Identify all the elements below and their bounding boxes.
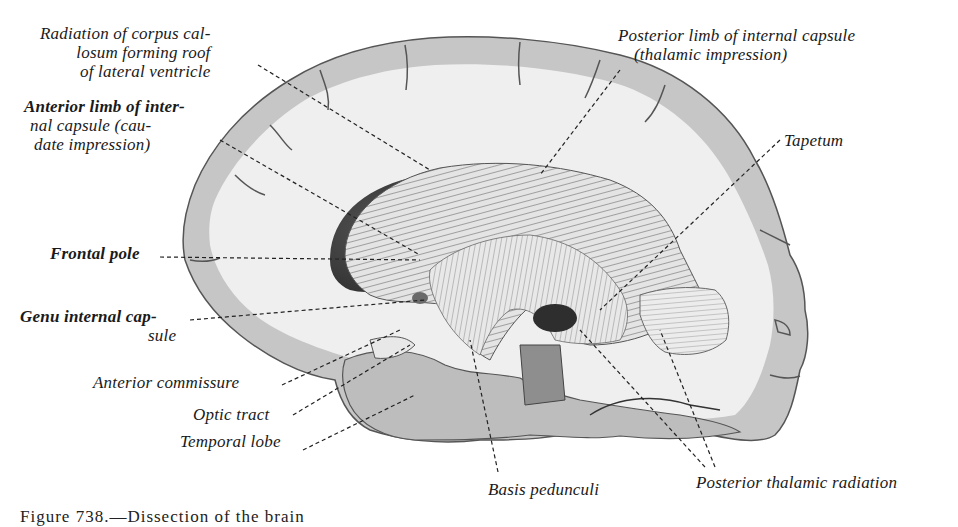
label-tapetum: Tapetum [784,131,843,150]
label-optic-tract: Optic tract [193,405,269,424]
label-posterior-thalamic-radiation: Posterior thalamic radiation [696,473,897,492]
label-basis-pedunculi: Basis pedunculi [488,480,599,499]
anterior-commissure-structure [412,292,428,304]
label-line: date impression) [24,135,185,154]
label-line: sule [20,326,176,345]
label-anterior-commissure: Anterior commissure [93,373,239,392]
peduncle-hole [533,304,577,332]
label-line: Genu internal cap- [20,307,176,326]
label-radiation-corpus-callosum: Radiation of corpus cal- losum forming r… [40,24,211,81]
label-anterior-limb-internal-capsule: Anterior limb of inter- nal capsule (cau… [24,97,185,154]
label-posterior-limb-internal-capsule: Posterior limb of internal capsule (thal… [618,26,855,64]
label-temporal-lobe: Temporal lobe [180,432,281,451]
label-genu-internal-capsule: Genu internal cap- sule [20,307,176,345]
label-line: Anterior limb of inter- [24,97,185,116]
brainstem [520,345,565,405]
figure-caption: Figure 738.—Dissection of the brain [20,507,305,527]
label-line: Posterior limb of internal capsule [618,26,855,45]
label-line: (thalamic impression) [618,45,855,64]
label-line: Radiation of corpus cal- [40,24,211,43]
label-line: of lateral ventricle [40,62,211,81]
label-frontal-pole: Frontal pole [50,244,140,263]
label-line: losum forming roof [40,43,211,62]
label-line: nal capsule (cau- [24,116,185,135]
